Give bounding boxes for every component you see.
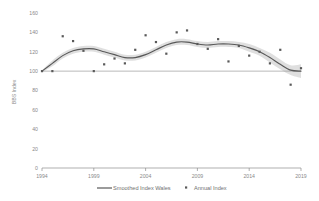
data-point (186, 29, 188, 31)
data-point (300, 67, 302, 69)
y-tick-label: 100 (29, 68, 38, 74)
y-axis: 020406080100120140160 (29, 10, 38, 171)
data-point (238, 45, 240, 47)
legend-label-smoothed: Smoothed Index Wales (113, 185, 171, 191)
data-point (62, 35, 64, 37)
x-tick-label: 2014 (243, 173, 255, 179)
data-point (279, 49, 281, 51)
y-tick-label: 20 (32, 146, 38, 152)
data-point (93, 70, 95, 72)
data-point (82, 50, 84, 52)
data-point (72, 40, 74, 42)
data-point (248, 55, 250, 57)
data-point (134, 49, 136, 51)
data-point (207, 48, 209, 50)
data-point (176, 31, 178, 33)
data-point (51, 70, 53, 72)
data-point (165, 53, 167, 55)
x-tick-label: 2009 (192, 173, 204, 179)
data-point (113, 57, 115, 59)
y-axis-title: BBS Index (11, 79, 17, 104)
chart-legend: Smoothed Index Wales Annual Index (97, 185, 227, 191)
x-tick-label: 1999 (88, 173, 100, 179)
x-tick-label: 2004 (140, 173, 152, 179)
y-tick-label: 160 (29, 10, 38, 16)
data-point (155, 41, 157, 43)
data-point (124, 62, 126, 64)
data-point (227, 60, 229, 62)
y-tick-label: 120 (29, 49, 38, 55)
chart-container: 020406080100120140160 199419992004200920… (0, 0, 319, 201)
confidence-band (42, 39, 301, 78)
y-tick-label: 60 (32, 107, 38, 113)
y-tick-label: 80 (32, 87, 38, 93)
data-point (290, 84, 292, 86)
data-point (217, 38, 219, 40)
data-point (269, 62, 271, 64)
bbs-index-chart: 020406080100120140160 199419992004200920… (0, 0, 319, 201)
legend-square-marker (185, 186, 187, 188)
y-tick-label: 0 (35, 165, 38, 171)
x-tick-label: 2019 (295, 173, 307, 179)
data-point (258, 51, 260, 53)
y-tick-label: 40 (32, 126, 38, 132)
legend-label-annual: Annual Index (194, 185, 227, 191)
data-point (103, 63, 105, 65)
data-point (196, 43, 198, 45)
y-tick-label: 140 (29, 29, 38, 35)
x-axis: 199419992004200920142019 (36, 168, 307, 179)
data-point (145, 34, 147, 36)
data-point (41, 70, 43, 72)
x-tick-label: 1994 (36, 173, 48, 179)
